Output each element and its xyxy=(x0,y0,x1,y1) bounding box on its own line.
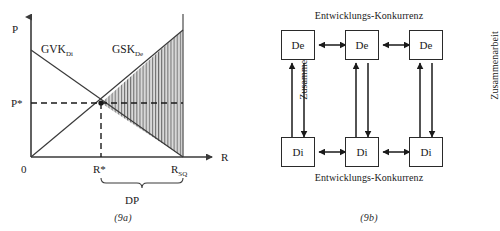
gsk-label-main: GSK xyxy=(112,43,136,55)
supply-demand-chart: P R 0 P* R* RSQ GVKDi GSKDe DP xyxy=(0,0,246,231)
gsk-label: GSKDe xyxy=(112,43,143,58)
gvk-label: GVKDi xyxy=(41,43,73,58)
node-di-3[interactable]: Di xyxy=(409,137,443,167)
gvk-label-main: GVK xyxy=(41,43,67,55)
gsk-label-sub: De xyxy=(135,50,143,58)
pstar-label: P* xyxy=(11,97,23,109)
node-de-3[interactable]: De xyxy=(409,30,443,60)
node-de-2[interactable]: De xyxy=(345,30,379,60)
dp-label: DP xyxy=(125,194,139,206)
figure-9a-caption: (9a) xyxy=(0,212,246,223)
equilibrium-point xyxy=(98,100,103,105)
network-diagram: Entwicklungs-Konkurrenz Entwicklungs-Kon… xyxy=(246,0,492,231)
dp-brace xyxy=(101,178,183,188)
figure-9b: Entwicklungs-Konkurrenz Entwicklungs-Kon… xyxy=(246,0,492,231)
node-di-2-label: Di xyxy=(357,146,368,158)
rsq-label: RSQ xyxy=(171,163,187,178)
x-axis-label: R xyxy=(221,151,229,163)
node-di-1[interactable]: Di xyxy=(281,137,315,167)
rstar-label: R* xyxy=(93,163,106,175)
origin-label: 0 xyxy=(21,163,27,175)
node-de-2-label: De xyxy=(356,39,369,51)
node-de-1-label: De xyxy=(292,39,305,51)
node-di-2[interactable]: Di xyxy=(345,137,379,167)
gvk-label-sub: Di xyxy=(66,50,73,58)
node-de-1[interactable]: De xyxy=(281,30,315,60)
figure-9b-caption: (9b) xyxy=(246,212,492,223)
rsq-label-sub: SQ xyxy=(178,170,187,178)
y-axis-label: P xyxy=(12,23,18,35)
node-di-1-label: Di xyxy=(293,146,304,158)
node-de-3-label: De xyxy=(420,39,433,51)
node-di-3-label: Di xyxy=(421,146,432,158)
figure-9a: P R 0 P* R* RSQ GVKDi GSKDe DP (9a) xyxy=(0,0,246,231)
